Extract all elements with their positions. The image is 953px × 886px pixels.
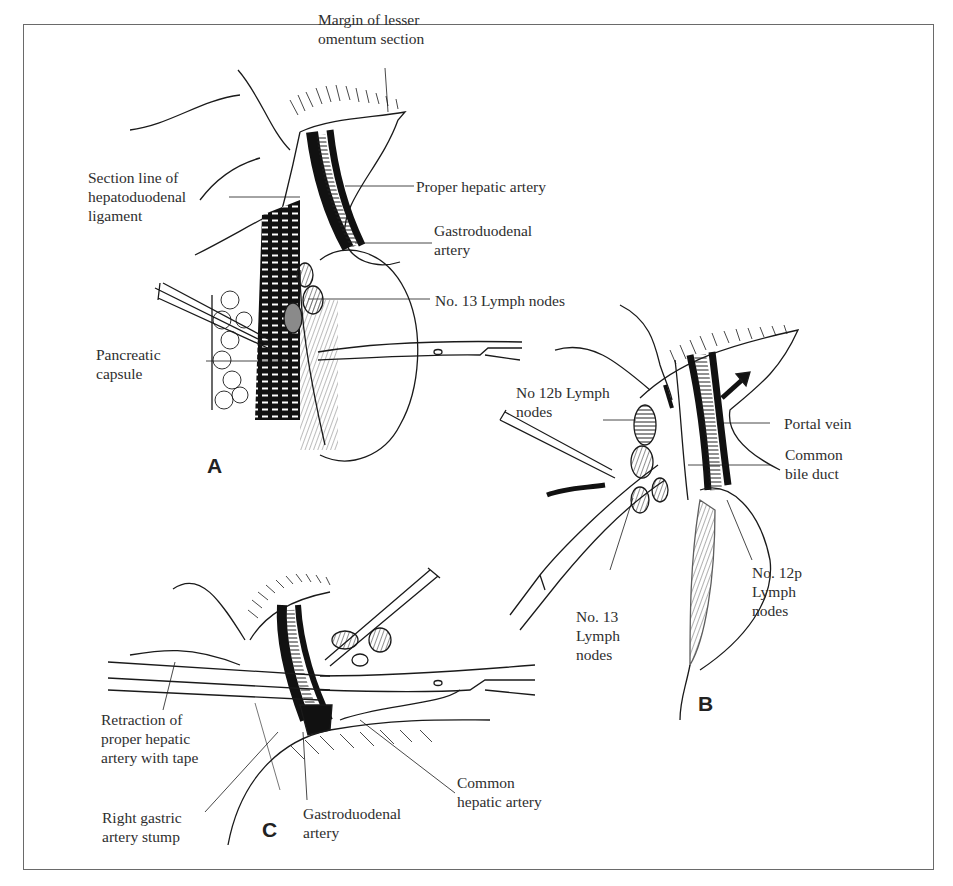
label-right-gastric-artery-stump: Right gastric artery stump (102, 808, 182, 846)
label-common-bile-duct: Common bile duct (785, 445, 843, 483)
label-pancreatic-capsule: Pancreatic capsule (96, 345, 161, 383)
label-gastroduodenal-artery-c: Gastroduodenal artery (303, 804, 401, 842)
label-no12b-lymph-nodes: No 12b Lymph nodes (516, 383, 610, 421)
label-margin-lesser-omentum: Margin of lesser omentum section (318, 10, 424, 48)
panel-label-b: B (698, 692, 713, 716)
panel-b-drawing (500, 305, 798, 720)
label-no13-lymph-nodes-a: No. 13 Lymph nodes (435, 291, 565, 310)
label-portal-vein: Portal vein (784, 414, 852, 433)
label-retraction-proper-hepatic-artery: Retraction of proper hepatic artery with… (101, 710, 198, 767)
panel-label-a: A (207, 454, 222, 478)
label-no13-lymph-nodes-b: No. 13 Lymph nodes (576, 607, 620, 664)
label-section-line-hepatoduodenal: Section line of hepatoduodenal ligament (88, 168, 186, 225)
label-proper-hepatic-artery: Proper hepatic artery (416, 177, 546, 196)
label-gastroduodenal-artery-a: Gastroduodenal artery (434, 221, 532, 259)
label-no12p-lymph-nodes: No. 12p Lymph nodes (752, 563, 802, 620)
panel-label-c: C (262, 818, 277, 842)
panel-a-drawing (130, 68, 522, 461)
label-common-hepatic-artery: Common hepatic artery (457, 773, 542, 811)
